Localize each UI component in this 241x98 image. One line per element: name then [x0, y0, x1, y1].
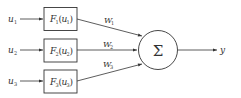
svg-text:): ): [70, 77, 74, 87]
svg-text:): ): [70, 14, 74, 24]
sigma-symbol: Σ: [153, 42, 164, 60]
function-block-3: F 3 ( u 3 ): [44, 70, 77, 93]
input-u1: u 1: [8, 14, 17, 25]
svg-text:3: 3: [14, 81, 17, 87]
function-block-2: F 2 ( u 2 ): [44, 39, 77, 62]
weight-label-w3: W 3: [103, 60, 113, 70]
output-label-y: y: [219, 45, 226, 55]
svg-text:1: 1: [111, 20, 114, 26]
input-u3: u 3: [8, 76, 17, 87]
input-u2: u 2: [8, 45, 17, 56]
function-block-1: F 1 ( u 1 ): [44, 8, 77, 31]
svg-text:3: 3: [110, 64, 113, 70]
svg-text:2: 2: [110, 44, 113, 50]
weighted-sum-diagram: u 1 u 2 u 3 F 1 ( u 1 ) F 2 ( u 2 ) F 3 …: [0, 0, 241, 98]
summation-node: Σ: [139, 31, 178, 70]
svg-text:): ): [70, 46, 74, 56]
weight-label-w2: W 2: [103, 40, 113, 50]
svg-text:1: 1: [14, 19, 17, 25]
svg-text:2: 2: [14, 50, 17, 56]
weight-label-w1: W 1: [104, 16, 114, 26]
